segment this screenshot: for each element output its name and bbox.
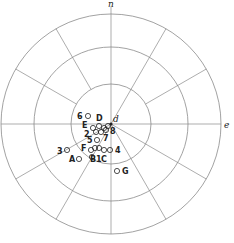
spoke-300 [16,69,77,104]
point-3 [64,147,69,152]
label-5: 5 [87,136,93,145]
spoke-30 [111,29,166,124]
spoke-330 [56,29,91,90]
spoke-240 [16,124,111,179]
north-label: n [108,0,114,9]
label-E: E [82,121,87,130]
point-A [76,156,81,161]
label-7: 7 [103,134,109,143]
label-D: D [96,114,103,123]
point-G [114,168,119,173]
label-6: 6 [77,112,83,121]
east-label: e [224,120,229,130]
point-6 [85,113,90,118]
spoke-60 [146,69,207,104]
label-4: 4 [115,146,121,155]
label-C: C [101,155,107,164]
point-4 [107,147,112,152]
polar-diagram: n e d 8 6 D E 2 7 5 F 4 3 A B 1 C G [0,0,234,243]
point-cluster-g [101,147,106,152]
label-G: G [122,167,129,176]
point-5 [94,137,99,142]
center-label: d [113,114,119,124]
label-3: 3 [57,147,63,156]
label-A: A [69,155,76,164]
point-8-label: 8 [110,127,116,136]
label-F: F [81,144,86,153]
